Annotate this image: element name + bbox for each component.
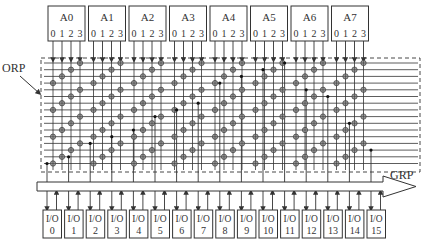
block-pin-label: 0 bbox=[294, 28, 299, 39]
block-pin-label: 1 bbox=[262, 28, 267, 39]
io-cell-8: I/O8 bbox=[216, 210, 235, 238]
block-pin-label: 3 bbox=[118, 28, 123, 39]
io-label: I/O bbox=[327, 214, 340, 224]
io-index: 8 bbox=[223, 225, 228, 236]
block-pin-label: 3 bbox=[321, 28, 326, 39]
block-name: A7 bbox=[343, 11, 357, 23]
io-index: 6 bbox=[179, 225, 184, 236]
io-label: I/O bbox=[111, 214, 124, 224]
block-pin-label: 1 bbox=[141, 28, 146, 39]
junction-dot bbox=[326, 95, 329, 98]
io-index: 0 bbox=[50, 225, 55, 236]
block-pin-label: 3 bbox=[361, 28, 366, 39]
junction-dot bbox=[283, 61, 286, 64]
io-cell-9: I/O9 bbox=[237, 210, 256, 238]
orp-label: ORP bbox=[2, 61, 25, 76]
block-pin-label: 2 bbox=[352, 28, 357, 39]
junction-dot bbox=[110, 135, 113, 138]
io-cell-3: I/O3 bbox=[108, 210, 127, 238]
io-index: 5 bbox=[158, 225, 163, 236]
block-pin-label: 1 bbox=[60, 28, 65, 39]
junction-dot bbox=[305, 88, 308, 91]
orp-routing-diagram: A00123A10123A20123A30123A40123A50123A601… bbox=[0, 0, 427, 246]
block-name: A0 bbox=[60, 11, 74, 23]
block-pin-label: 1 bbox=[343, 28, 348, 39]
block-pin-label: 2 bbox=[109, 28, 114, 39]
block-pin-label: 2 bbox=[271, 28, 276, 39]
junction-dot bbox=[67, 155, 70, 158]
io-index: 14 bbox=[350, 225, 360, 236]
io-label: I/O bbox=[89, 214, 102, 224]
block-name: A5 bbox=[262, 11, 276, 23]
io-cell-4: I/O4 bbox=[129, 210, 148, 238]
block-pin-label: 0 bbox=[172, 28, 177, 39]
block-pin-label: 0 bbox=[91, 28, 96, 39]
junction-dot bbox=[89, 142, 92, 145]
io-label: I/O bbox=[197, 214, 210, 224]
io-label: I/O bbox=[68, 214, 81, 224]
io-index: 12 bbox=[306, 225, 316, 236]
labels bbox=[20, 76, 39, 93]
io-index: 15 bbox=[371, 225, 381, 236]
block-pin-label: 0 bbox=[132, 28, 137, 39]
block-pin-label: 0 bbox=[51, 28, 56, 39]
io-cell-2: I/O2 bbox=[86, 210, 105, 238]
logic-block-a6: A60123 bbox=[291, 6, 328, 41]
io-cell-11: I/O11 bbox=[281, 210, 300, 238]
io-label: I/O bbox=[219, 214, 232, 224]
logic-block-a5: A50123 bbox=[251, 6, 288, 41]
block-pin-label: 3 bbox=[159, 28, 164, 39]
io-label: I/O bbox=[46, 214, 59, 224]
io-cell-0: I/O0 bbox=[43, 210, 62, 238]
logic-block-a0: A00123 bbox=[48, 6, 85, 41]
io-cells: I/O0I/O1I/O2I/O3I/O4I/O5I/O6I/O7I/O8I/O9… bbox=[43, 210, 386, 238]
junction-dot bbox=[240, 75, 243, 78]
block-pin-label: 3 bbox=[199, 28, 204, 39]
io-cell-14: I/O14 bbox=[345, 210, 364, 238]
block-pin-label: 2 bbox=[312, 28, 317, 39]
io-label: I/O bbox=[284, 214, 297, 224]
logic-block-a4: A40123 bbox=[210, 6, 247, 41]
block-name: A2 bbox=[141, 11, 154, 23]
block-pin-label: 2 bbox=[231, 28, 236, 39]
io-cell-6: I/O6 bbox=[173, 210, 192, 238]
block-name: A6 bbox=[303, 11, 317, 23]
orp-pointer-arrow bbox=[20, 76, 39, 93]
io-index: 7 bbox=[201, 225, 206, 236]
junction-dot bbox=[369, 149, 372, 152]
block-pin-label: 2 bbox=[190, 28, 195, 39]
io-index: 3 bbox=[115, 225, 120, 236]
block-pin-label: 3 bbox=[240, 28, 245, 39]
io-cell-5: I/O5 bbox=[151, 210, 170, 238]
logic-block-a1: A10123 bbox=[89, 6, 126, 41]
io-index: 2 bbox=[93, 225, 98, 236]
io-label: I/O bbox=[154, 214, 167, 224]
block-pin-label: 0 bbox=[213, 28, 218, 39]
block-name: A1 bbox=[100, 11, 113, 23]
io-label: I/O bbox=[348, 214, 361, 224]
junction-dot bbox=[45, 162, 48, 165]
io-cell-10: I/O10 bbox=[259, 210, 278, 238]
io-label: I/O bbox=[305, 214, 318, 224]
io-index: 11 bbox=[285, 225, 295, 236]
block-pin-label: 2 bbox=[69, 28, 74, 39]
io-label: I/O bbox=[240, 214, 253, 224]
junction-dot bbox=[197, 102, 200, 105]
io-cell-7: I/O7 bbox=[194, 210, 213, 238]
block-pin-label: 1 bbox=[181, 28, 186, 39]
block-pin-label: 1 bbox=[222, 28, 227, 39]
junction-dot bbox=[175, 108, 178, 111]
junction-dot bbox=[218, 82, 221, 85]
io-label: I/O bbox=[132, 214, 145, 224]
junction-dot bbox=[348, 122, 351, 125]
io-index: 1 bbox=[71, 225, 76, 236]
block-name: A3 bbox=[181, 11, 195, 23]
grp-label: GRP bbox=[390, 168, 413, 183]
junction-dot bbox=[132, 128, 135, 131]
block-name: A4 bbox=[222, 11, 236, 23]
io-label: I/O bbox=[262, 214, 275, 224]
block-pin-label: 3 bbox=[78, 28, 83, 39]
io-label: I/O bbox=[176, 214, 189, 224]
junction-dot bbox=[261, 68, 264, 71]
logic-block-a3: A30123 bbox=[170, 6, 207, 41]
